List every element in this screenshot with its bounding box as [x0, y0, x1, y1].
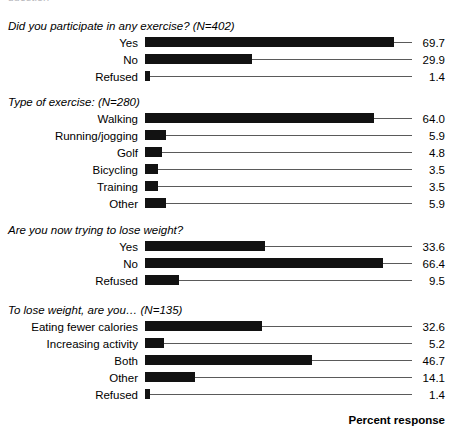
- value-bar: [145, 355, 312, 365]
- category-label: Increasing activity: [0, 337, 138, 351]
- chart-row: Yes69.7: [0, 35, 452, 52]
- value-bar: [145, 275, 179, 285]
- chart-row: Walking64.0: [0, 111, 452, 128]
- value-label: 29.9: [395, 53, 445, 67]
- value-bar: [145, 130, 166, 140]
- category-label: Refused: [0, 388, 138, 402]
- value-label: 3.5: [395, 163, 445, 177]
- panel-rows: Eating fewer calories32.6Increasing acti…: [0, 319, 452, 404]
- value-label: 5.9: [395, 197, 445, 211]
- panel-title: Type of exercise: (N=280): [8, 96, 140, 109]
- category-label: Refused: [0, 274, 138, 288]
- value-bar: [145, 71, 150, 81]
- chart-row: Running/jogging5.9: [0, 128, 452, 145]
- value-label: 1.4: [395, 388, 445, 402]
- chart-row: Other5.9: [0, 196, 452, 213]
- value-bar: [145, 37, 394, 47]
- value-label: 5.9: [395, 129, 445, 143]
- value-label: 5.2: [395, 337, 445, 351]
- category-label: Yes: [0, 36, 138, 50]
- category-label: No: [0, 257, 138, 271]
- value-label: 33.6: [395, 240, 445, 254]
- value-label: 46.7: [395, 354, 445, 368]
- leader-line: [145, 186, 412, 187]
- value-label: 66.4: [395, 257, 445, 271]
- leader-line: [145, 203, 412, 204]
- value-bar: [145, 113, 374, 123]
- panel-rows: Yes33.6No66.4Refused9.5: [0, 239, 452, 290]
- value-label: 9.5: [395, 274, 445, 288]
- survey-bar-chart: Did you participate in any exercise? (N=…: [0, 0, 452, 434]
- category-label: Both: [0, 354, 138, 368]
- chart-row: Training3.5: [0, 179, 452, 196]
- category-label: Bicycling: [0, 163, 138, 177]
- category-label: Golf: [0, 146, 138, 160]
- category-label: Walking: [0, 112, 138, 126]
- panel-title: To lose weight, are you… (N=135): [8, 304, 182, 317]
- category-label: Running/jogging: [0, 129, 138, 143]
- value-bar: [145, 321, 262, 331]
- chart-row: No29.9: [0, 52, 452, 69]
- panel-rows: Walking64.0Running/jogging5.9Golf4.8Bicy…: [0, 111, 452, 213]
- leader-line: [145, 169, 412, 170]
- value-bar: [145, 241, 265, 251]
- value-label: 4.8: [395, 146, 445, 160]
- value-bar: [145, 198, 166, 208]
- category-label: Refused: [0, 70, 138, 84]
- chart-row: Bicycling3.5: [0, 162, 452, 179]
- chart-row: Eating fewer calories32.6: [0, 319, 452, 336]
- chart-row: Refused1.4: [0, 387, 452, 404]
- value-bar: [145, 389, 150, 399]
- value-bar: [145, 338, 164, 348]
- leader-line: [145, 394, 412, 395]
- leader-line: [145, 152, 412, 153]
- category-label: Other: [0, 197, 138, 211]
- value-label: 32.6: [395, 320, 445, 334]
- leader-line: [145, 76, 412, 77]
- chart-row: No66.4: [0, 256, 452, 273]
- value-bar: [145, 181, 158, 191]
- value-bar: [145, 147, 162, 157]
- value-bar: [145, 372, 195, 382]
- chart-row: Both46.7: [0, 353, 452, 370]
- category-label: No: [0, 53, 138, 67]
- value-label: 64.0: [395, 112, 445, 126]
- value-label: 14.1: [395, 371, 445, 385]
- leader-line: [145, 343, 412, 344]
- value-label: 69.7: [395, 36, 445, 50]
- chart-row: Refused1.4: [0, 69, 452, 86]
- leader-line: [145, 135, 412, 136]
- value-label: 3.5: [395, 180, 445, 194]
- chart-row: Refused9.5: [0, 273, 452, 290]
- value-label: 1.4: [395, 70, 445, 84]
- panel-title: Did you participate in any exercise? (N=…: [8, 20, 235, 33]
- category-label: Yes: [0, 240, 138, 254]
- value-bar: [145, 164, 158, 174]
- value-bar: [145, 54, 252, 64]
- chart-row: Other14.1: [0, 370, 452, 387]
- chart-row: Increasing activity5.2: [0, 336, 452, 353]
- panel-rows: Yes69.7No29.9Refused1.4: [0, 35, 452, 86]
- chart-row: Yes33.6: [0, 239, 452, 256]
- category-label: Other: [0, 371, 138, 385]
- x-axis-label: Percent response: [245, 414, 445, 426]
- category-label: Eating fewer calories: [0, 320, 138, 334]
- value-bar: [145, 258, 383, 268]
- category-label: Training: [0, 180, 138, 194]
- chart-row: Golf4.8: [0, 145, 452, 162]
- leader-line: [145, 280, 412, 281]
- panel-title: Are you now trying to lose weight?: [8, 224, 183, 237]
